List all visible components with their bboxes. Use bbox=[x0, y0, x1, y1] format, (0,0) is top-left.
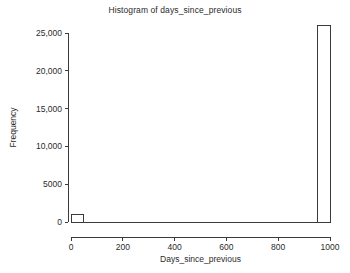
x-axis-tick-label: 600 bbox=[219, 242, 233, 252]
y-axis-tick-label: 5000 bbox=[43, 179, 62, 189]
y-axis-title: Frequency bbox=[8, 107, 18, 148]
histogram-bar bbox=[84, 222, 97, 223]
histogram-bar bbox=[136, 222, 149, 223]
x-axis-tick-label: 0 bbox=[69, 242, 74, 252]
histogram-bar bbox=[265, 222, 278, 223]
y-axis-tick-label: 10,000 bbox=[36, 141, 62, 151]
histogram-bars bbox=[71, 25, 330, 222]
histogram-bar bbox=[278, 222, 291, 223]
histogram-figure: Histogram of days_since_previous 0500010… bbox=[0, 0, 350, 273]
histogram-bar bbox=[291, 222, 304, 223]
histogram-bar bbox=[213, 222, 226, 223]
histogram-bar bbox=[304, 222, 317, 223]
histogram-bar bbox=[226, 222, 239, 223]
y-axis: 0500010,00015,00020,00025,000 bbox=[36, 28, 68, 227]
x-axis-title: Days_since_previous bbox=[160, 254, 241, 264]
histogram-bar bbox=[252, 222, 265, 223]
histogram-bar bbox=[97, 222, 110, 223]
y-axis-tick-label: 0 bbox=[57, 217, 62, 227]
y-axis-tick-label: 20,000 bbox=[36, 66, 62, 76]
histogram-bar bbox=[188, 222, 201, 223]
histogram-bar bbox=[71, 214, 84, 222]
histogram-bar bbox=[317, 25, 330, 222]
histogram-bar bbox=[175, 222, 188, 223]
y-axis-tick-label: 25,000 bbox=[36, 28, 62, 38]
x-axis: 02004006008001000 bbox=[69, 237, 340, 252]
histogram-bar bbox=[201, 222, 214, 223]
histogram-bar bbox=[123, 222, 136, 223]
x-axis-tick-label: 800 bbox=[271, 242, 285, 252]
histogram-bar bbox=[110, 222, 123, 223]
y-axis-tick-label: 15,000 bbox=[36, 104, 62, 114]
histogram-bar bbox=[162, 222, 175, 223]
x-axis-tick-label: 1000 bbox=[321, 242, 340, 252]
histogram-plot: 0500010,00015,00020,00025,000 0200400600… bbox=[0, 0, 350, 273]
x-axis-tick-label: 200 bbox=[116, 242, 130, 252]
histogram-bar bbox=[149, 222, 162, 223]
x-axis-tick-label: 400 bbox=[168, 242, 182, 252]
histogram-bar bbox=[239, 222, 252, 223]
